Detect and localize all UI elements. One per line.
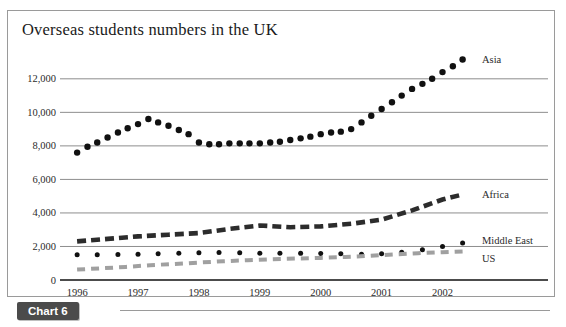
x-axis-tick-label: 1996	[67, 287, 88, 298]
data-point	[124, 125, 130, 131]
data-point	[165, 123, 171, 129]
series-label: US	[482, 253, 496, 264]
data-point	[379, 251, 384, 256]
data-point	[338, 251, 343, 256]
data-point	[226, 140, 232, 146]
x-axis-tick-label: 1999	[249, 287, 270, 298]
y-axis-tick-labels: 02,0004,0006,0008,00010,00012,000	[27, 73, 56, 285]
data-point	[460, 241, 465, 246]
data-point	[135, 121, 141, 127]
data-point	[95, 252, 100, 257]
data-point	[246, 140, 252, 146]
data-point	[328, 129, 334, 135]
data-point	[185, 131, 191, 137]
y-axis-tick-label: 4,000	[32, 207, 56, 218]
data-point	[237, 250, 242, 255]
status-badge: Chart 6	[17, 302, 79, 320]
data-point	[277, 138, 283, 144]
data-point	[74, 149, 80, 155]
data-point	[176, 251, 181, 256]
data-point	[420, 247, 425, 252]
data-point	[156, 251, 161, 256]
y-axis-tick-label: 6,000	[32, 174, 56, 185]
data-point	[217, 250, 222, 255]
data-point	[429, 76, 435, 82]
data-point	[378, 106, 384, 112]
data-point	[298, 251, 303, 256]
data-point	[368, 113, 374, 119]
data-point	[399, 92, 405, 98]
y-axis-tick-label: 2,000	[32, 241, 56, 252]
data-point	[287, 137, 293, 143]
x-axis-tick-label: 2002	[432, 287, 453, 298]
series-label: Africa	[482, 189, 509, 200]
data-point	[257, 140, 263, 146]
data-point	[75, 252, 80, 257]
data-point	[267, 139, 273, 145]
y-axis-tick-label: 0	[51, 275, 56, 286]
series-labels: AsiaAfricaMiddle EastUS	[482, 54, 533, 263]
data-point	[196, 250, 201, 255]
chart-plot-area: 02,0004,0006,0008,00010,00012,000 199619…	[0, 0, 566, 327]
data-point	[176, 127, 182, 133]
data-point	[257, 251, 262, 256]
data-point	[84, 144, 90, 150]
x-axis-tick-label: 2000	[310, 287, 331, 298]
x-axis-tick-label: 1998	[188, 287, 209, 298]
x-axis-tick-label: 2001	[371, 287, 392, 298]
series-lines	[74, 56, 466, 269]
data-point	[237, 140, 243, 146]
data-point	[104, 134, 110, 140]
data-point	[94, 139, 100, 145]
data-point	[196, 139, 202, 145]
data-point	[277, 251, 282, 256]
y-axis-tick-label: 8,000	[32, 140, 56, 151]
series-label: Asia	[482, 54, 502, 65]
data-point	[389, 99, 395, 105]
series-line	[77, 195, 463, 242]
data-point	[307, 133, 313, 139]
data-point	[115, 252, 120, 257]
data-point	[155, 119, 161, 125]
data-point	[348, 126, 354, 132]
data-point	[136, 252, 141, 257]
data-point	[440, 244, 445, 249]
data-point	[409, 86, 415, 92]
x-axis-tick-labels: 1996199719981999200020012002	[67, 287, 453, 298]
data-point	[338, 128, 344, 134]
series-line	[77, 252, 463, 270]
series-label: Middle East	[482, 235, 533, 246]
data-point	[297, 135, 303, 141]
data-point	[115, 129, 121, 135]
gridlines	[60, 79, 548, 247]
data-point	[459, 56, 465, 62]
data-point	[419, 81, 425, 87]
data-point	[318, 131, 324, 137]
data-point	[216, 141, 222, 147]
data-point	[358, 119, 364, 125]
data-point	[439, 69, 445, 75]
data-point	[450, 63, 456, 69]
badge-rule-divider	[120, 310, 550, 311]
data-point	[206, 141, 212, 147]
y-axis-tick-label: 12,000	[27, 73, 56, 84]
data-point	[318, 251, 323, 256]
data-point	[145, 116, 151, 122]
y-axis-tick-label: 10,000	[27, 107, 56, 118]
x-axis-tick-label: 1997	[128, 287, 149, 298]
